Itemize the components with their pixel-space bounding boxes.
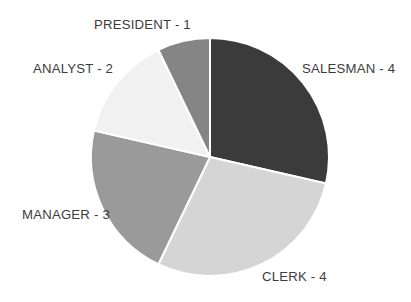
pie-label-manager: MANAGER - 3 [22, 208, 110, 221]
pie-chart-figure: PRESIDENT - 1 SALESMAN - 4 ANALYST - 2 M… [0, 0, 411, 302]
pie-label-analyst: ANALYST - 2 [33, 62, 113, 75]
pie-label-clerk: CLERK - 4 [262, 270, 327, 283]
pie-chart-graphic [0, 0, 411, 302]
pie-label-president: PRESIDENT - 1 [94, 18, 191, 31]
pie-slices-group [91, 38, 329, 276]
pie-label-salesman: SALESMAN - 4 [302, 62, 395, 75]
